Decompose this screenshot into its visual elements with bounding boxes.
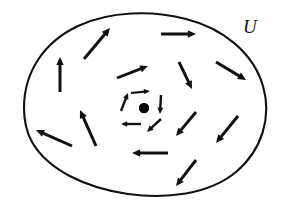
outer-bottom-diagonal-shaft [180,160,196,180]
singularity-dot [139,103,149,113]
inner-top-arrow [131,89,150,94]
vector-field-figure: U [0,0,282,206]
inner-top-shaft [131,92,145,93]
outer-lower-far-right-shaft [221,116,238,137]
outer-bottom-left-arrow-head-icon [132,149,140,157]
outer-mid-upper-right-arrow [117,65,148,78]
inner-left-shaft [121,98,126,111]
outer-right-down-arrow [179,62,192,89]
outer-mid-upper-right-shaft [117,69,141,78]
inner-left-arrow [121,93,128,111]
outer-lower-right-inner-shaft [181,112,196,130]
inner-bottom-right-arrow [147,119,161,132]
outer-upper-left-diagonal-arrow [84,28,110,59]
outer-bottom-diagonal-arrow [176,160,196,186]
inner-right-head-icon [157,107,163,114]
inner-bottom-left-arrow [121,121,141,127]
region-label-u: U [243,16,258,37]
outer-lower-right-inner-arrow [176,112,196,136]
outer-lower-left-up-arrow [80,110,96,146]
inner-bottom-right-shaft [151,119,161,128]
outer-top-right-arrow [161,30,196,38]
inner-right-arrow [157,95,163,114]
inner-bottom-left-head-icon [121,121,127,127]
outer-far-right-down-shaft [216,62,240,76]
outer-lower-left-up-shaft [83,117,96,146]
outer-lower-far-right-arrow [216,116,238,143]
outer-far-right-down-arrow [216,62,246,80]
outer-right-down-shaft [179,62,189,82]
outer-left-arrow-shaft [43,133,72,146]
outer-left-up-head-icon [56,57,63,65]
outer-top-right-head-icon [188,30,196,38]
outer-upper-left-diagonal-shaft [84,34,105,59]
outer-left-up-arrow [56,57,63,92]
outer-left-arrow-arrow [36,130,72,146]
vector-field-canvas: U [0,0,282,206]
inner-top-head-icon [144,89,150,94]
inner-right-shaft [160,95,161,108]
outer-bottom-left-arrow-arrow [132,149,168,157]
